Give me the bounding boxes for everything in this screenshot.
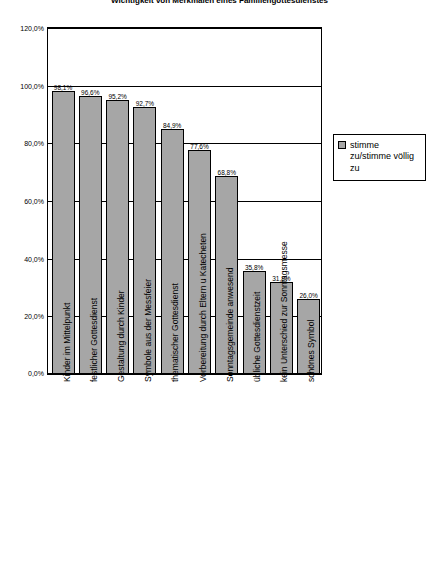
ytick-label-20: 20,0% — [24, 313, 44, 320]
ytick-label-100: 100,0% — [20, 82, 44, 89]
bar-value-label: 68,8% — [218, 169, 236, 176]
ytick-label-60: 60,0% — [24, 198, 44, 205]
category-label: übliche Gottesdienstzeit — [253, 292, 262, 382]
bar-value-label: 84,9% — [163, 122, 181, 129]
bar-value-label: 96,6% — [81, 89, 99, 96]
category-label: schönes Symbol — [307, 320, 316, 382]
bar-value-label: 35,8% — [245, 264, 263, 271]
category-label: Gestaltung durch Kinder — [117, 290, 126, 382]
category-label: thematischer Gottesdienst — [171, 283, 180, 382]
ytick-label-0: 0,0% — [28, 370, 44, 377]
chart-title: Wichtigkeit von Merkmalen eines Familien… — [0, 0, 439, 6]
category-label: festlicher Gottesdienst — [90, 298, 99, 382]
bar-chart: Wichtigkeit von Merkmalen eines Familien… — [0, 0, 439, 587]
bar-value-label: 26,0% — [299, 292, 317, 299]
category-label: Vorbereitung durch Eltern u Katecheten — [199, 233, 208, 382]
legend-entry-label: stimme zu/stimme völlig zu — [350, 140, 421, 174]
category-label: Kinder im Mittelpunkt — [63, 303, 72, 382]
category-label: Sonntagsgemeinde anwesend — [226, 268, 235, 382]
bar-value-label: 98,1% — [54, 84, 72, 91]
category-label: Symbole aus der Messfeier — [144, 279, 153, 382]
ytick-label-80: 80,0% — [24, 140, 44, 147]
ytick-label-40: 40,0% — [24, 255, 44, 262]
bar-value-label: 92,7% — [136, 100, 154, 107]
legend-swatch-icon — [338, 141, 346, 149]
legend: stimme zu/stimme völlig zu — [333, 134, 426, 181]
bar-value-label: 77,6% — [190, 143, 208, 150]
bar-value-label: 95,2% — [108, 93, 126, 100]
category-label: kein Unterschied zur Sonntagsmesse — [280, 241, 289, 382]
ytick-label-120: 120,0% — [20, 25, 44, 32]
